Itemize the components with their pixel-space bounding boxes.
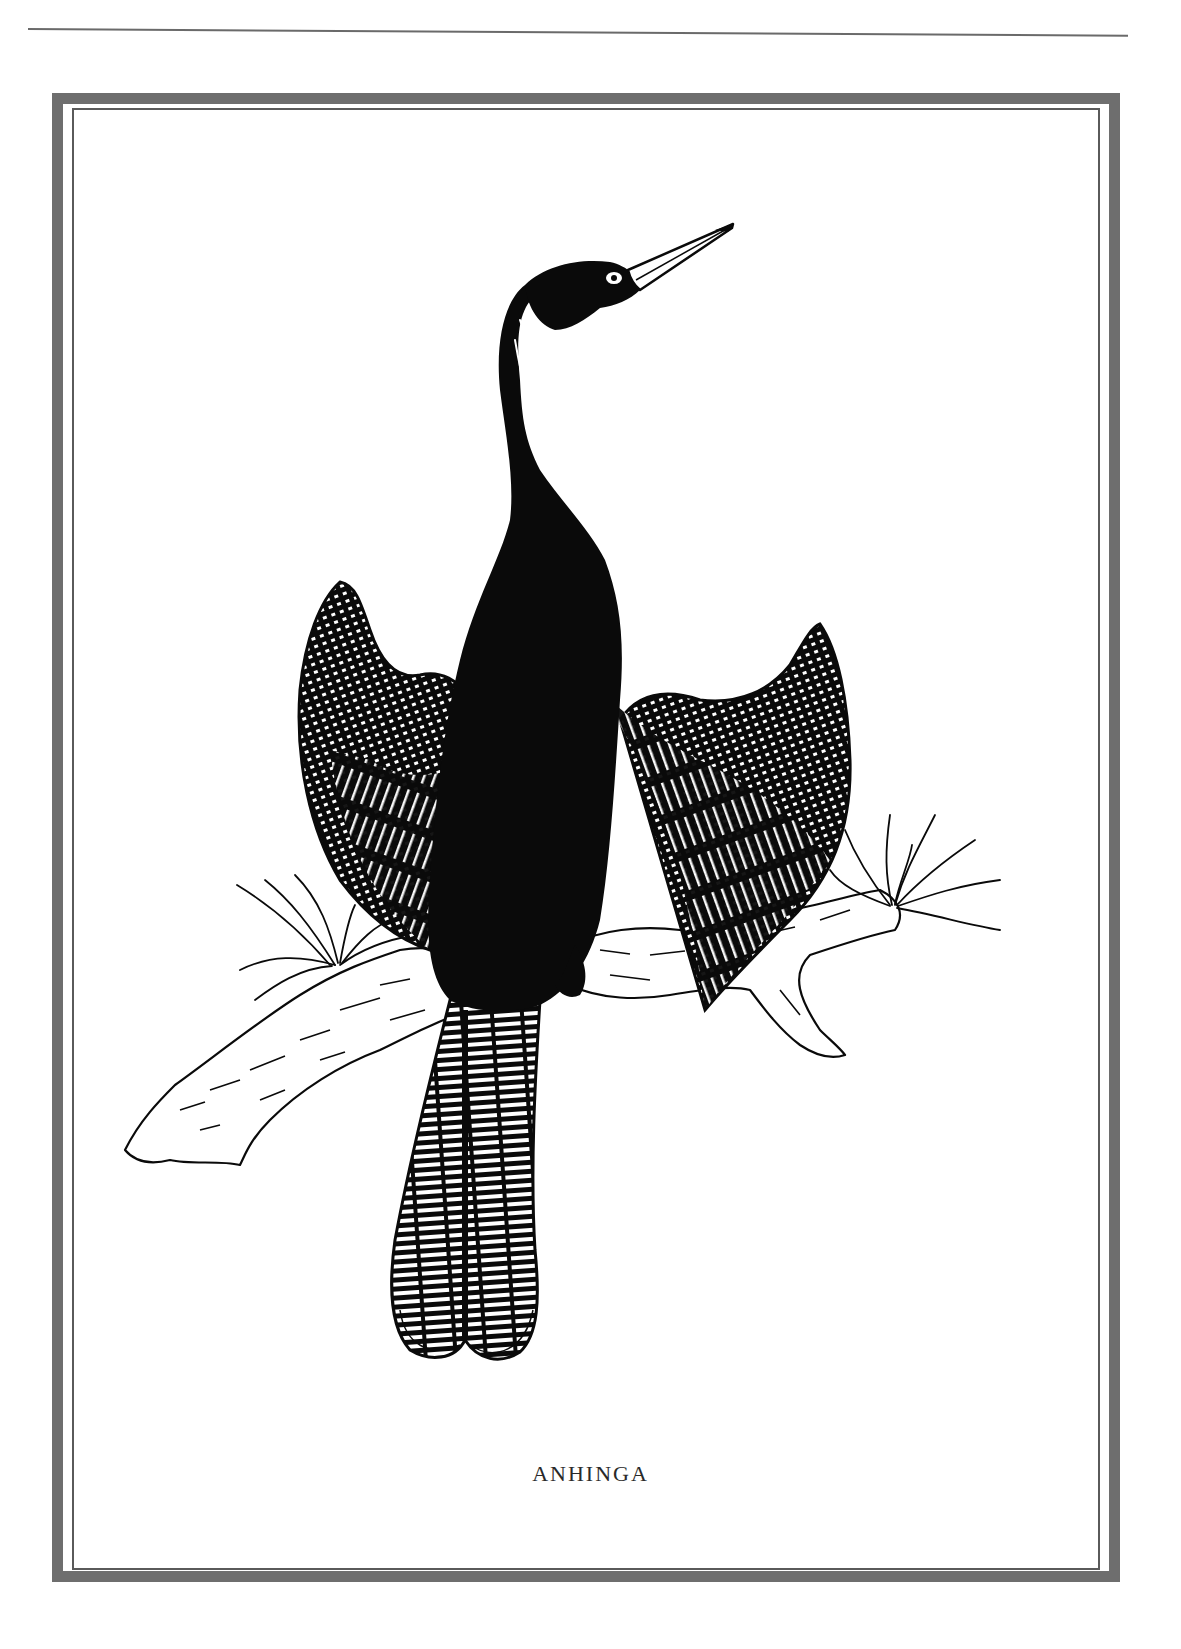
tail-feathers: [392, 1000, 540, 1359]
beak: [628, 224, 733, 290]
anhinga-illustration: [0, 0, 1181, 1649]
body-neck: [428, 285, 622, 1011]
plate-caption: ANHINGA: [0, 1461, 1181, 1487]
head: [525, 261, 640, 330]
